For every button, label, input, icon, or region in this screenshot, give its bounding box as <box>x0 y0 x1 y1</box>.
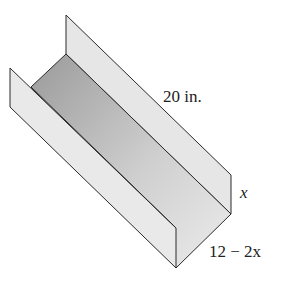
width-label: 12 − 2x <box>209 242 262 261</box>
length-label: 20 in. <box>163 87 202 106</box>
height-label: x <box>239 183 248 202</box>
trough-diagram: 20 in. x 12 − 2x <box>0 0 283 281</box>
